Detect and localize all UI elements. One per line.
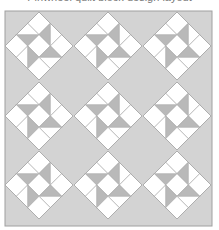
quilt-grid	[0, 0, 219, 230]
